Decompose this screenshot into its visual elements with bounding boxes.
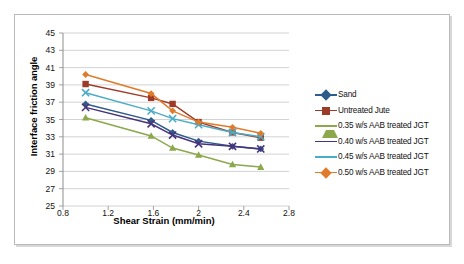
legend-label: Untreated Jute — [337, 106, 390, 115]
chart-legend: SandUntreated Jute0.35 w/s AAB treated J… — [315, 87, 455, 180]
legend-label: Sand — [337, 90, 357, 99]
data-point — [82, 114, 89, 121]
legend-marker-icon — [315, 166, 337, 179]
y-tick-label: 45 — [29, 28, 55, 38]
plot-area — [63, 33, 289, 206]
data-point — [169, 144, 176, 151]
chart-area: Interface friction angle 252729313335373… — [15, 15, 451, 246]
y-tick-label: 35 — [29, 115, 55, 125]
legend-item[interactable]: 0.50 w/s AAB treated JGT — [315, 165, 455, 181]
legend-label: 0.35 w/s AAB treated JGT — [337, 121, 429, 130]
series-lines — [63, 33, 289, 206]
legend-marker-icon — [315, 150, 337, 163]
x-axis-title: Shear Strain (mm/min) — [49, 215, 279, 226]
y-tick-label: 43 — [29, 45, 55, 55]
y-tick-label: 27 — [29, 184, 55, 194]
legend-label: 0.40 w/s AAB treated JGT — [337, 137, 429, 146]
legend-item[interactable]: 0.35 w/s AAB treated JGT — [315, 118, 455, 134]
legend-marker-icon — [315, 119, 337, 132]
legend-label: 0.45 w/s AAB treated JGT — [337, 152, 429, 161]
series-0-35-w-s-aab-treated-jgt — [82, 114, 264, 170]
legend-marker-icon — [315, 135, 337, 148]
y-tick-label: 37 — [29, 97, 55, 107]
y-tick-label: 31 — [29, 149, 55, 159]
legend-marker-icon — [315, 88, 337, 101]
chart-frame: Interface friction angle 252729313335373… — [14, 14, 450, 245]
y-tick-label: 33 — [29, 132, 55, 142]
y-tick-label: 41 — [29, 63, 55, 73]
legend-item[interactable]: 0.40 w/s AAB treated JGT — [315, 134, 455, 150]
legend-item[interactable]: 0.45 w/s AAB treated JGT — [315, 149, 455, 165]
legend-item[interactable]: Sand — [315, 87, 455, 103]
data-point — [82, 71, 89, 78]
y-tick-label: 29 — [29, 166, 55, 176]
legend-item[interactable]: Untreated Jute — [315, 103, 455, 119]
series-line — [86, 118, 261, 167]
data-point — [82, 81, 88, 87]
legend-label: 0.50 w/s AAB treated JGT — [337, 168, 429, 177]
data-point — [169, 101, 175, 107]
legend-marker-icon — [315, 104, 337, 117]
y-tick-label: 39 — [29, 80, 55, 90]
